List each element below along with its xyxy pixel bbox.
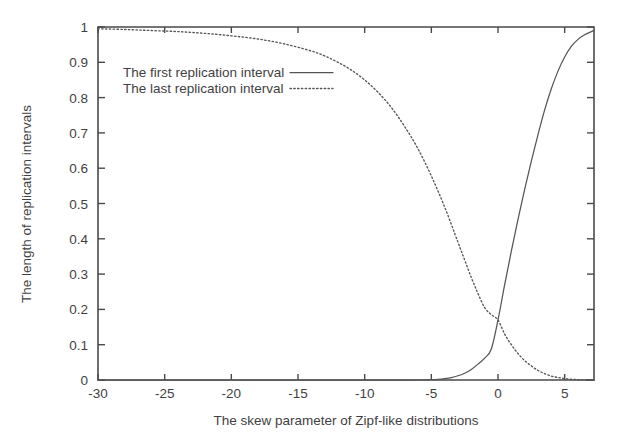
x-tick-label: -15	[288, 386, 308, 401]
y-tick-label: 0.3	[69, 267, 88, 282]
x-tick-label: -20	[222, 386, 242, 401]
y-tick-label: 0.4	[69, 232, 88, 247]
y-tick-label: 0	[80, 373, 88, 388]
y-tick-label: 0.6	[69, 161, 88, 176]
legend-label-last-replication-interval: The last replication interval	[123, 81, 284, 96]
legend-label-first-replication-interval: The first replication interval	[123, 65, 284, 80]
chart-figure: -30-25-20-15-10-505 00.10.20.30.40.50.60…	[0, 0, 625, 442]
y-tick-label: 0.7	[69, 126, 88, 141]
y-tick-label: 0.2	[69, 302, 88, 317]
y-tick-label: 0.9	[69, 55, 88, 70]
x-axis-title: The skew parameter of Zipf-like distribu…	[214, 413, 479, 428]
y-tick-label: 0.5	[69, 197, 88, 212]
x-tick-label: -25	[155, 386, 175, 401]
chart-background	[0, 0, 625, 442]
x-tick-label: -10	[355, 386, 375, 401]
y-tick-label: 1	[80, 20, 88, 35]
y-axis-title: The length of replication intervals	[19, 105, 34, 303]
x-tick-label: 5	[561, 386, 569, 401]
chart-svg: -30-25-20-15-10-505 00.10.20.30.40.50.60…	[0, 0, 625, 442]
x-tick-label: -5	[425, 386, 437, 401]
x-tick-label: -30	[88, 386, 108, 401]
y-tick-label: 0.1	[69, 338, 88, 353]
x-tick-label: 0	[494, 386, 502, 401]
y-tick-label: 0.8	[69, 91, 88, 106]
